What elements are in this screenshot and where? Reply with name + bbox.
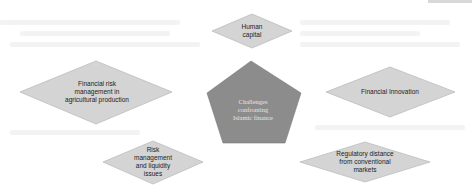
label-line: and liquidity	[134, 162, 172, 170]
label-line: Islamic finance	[233, 114, 273, 122]
label-line: markets	[336, 166, 393, 174]
label-line: Risk	[134, 146, 172, 154]
label-line: management in	[65, 88, 129, 96]
label-financial-risk-agri: Financial risk management in agricultura…	[65, 80, 129, 104]
label-regulatory-distance: Regulatory distance from conventional ma…	[336, 150, 393, 174]
label-center-challenges: Challenges confronting Islamic finance	[233, 98, 273, 122]
label-line: from conventional	[336, 158, 393, 166]
label-financial-innovation: Financial Innovation	[361, 88, 419, 96]
label-line: confronting	[233, 106, 273, 114]
label-line: Financial risk	[65, 80, 129, 88]
label-line: Regulatory distance	[336, 150, 393, 158]
label-line: management	[134, 154, 172, 162]
label-line: capital	[242, 31, 263, 39]
label-human-capital: Human capital	[242, 23, 263, 39]
label-line: issues	[134, 170, 172, 178]
label-line: agricultural production	[65, 96, 129, 104]
label-line: Challenges	[233, 98, 273, 106]
label-risk-liquidity: Risk management and liquidity issues	[134, 146, 172, 178]
label-line: Human	[242, 23, 263, 31]
label-line: Financial Innovation	[361, 88, 419, 96]
